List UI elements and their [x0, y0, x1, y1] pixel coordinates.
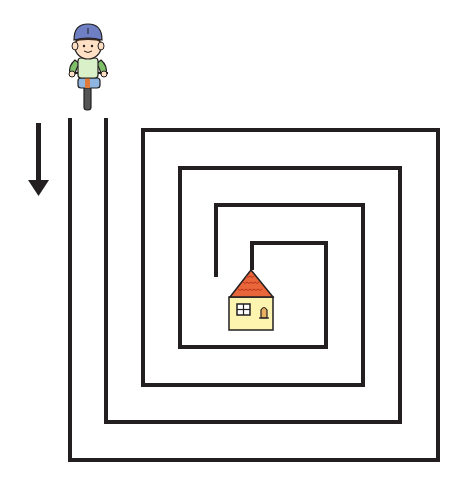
maze-wall-inner: [106, 118, 400, 422]
down-arrow-icon: [28, 123, 49, 196]
maze-puzzle: [0, 0, 463, 494]
house-icon: [229, 270, 273, 330]
cyclist-icon: [69, 24, 108, 110]
